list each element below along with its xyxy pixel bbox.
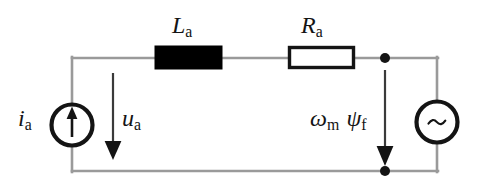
emf-arrow [377, 70, 394, 166]
circuit-schematic-svg [0, 0, 488, 195]
current-subscript: a [25, 116, 32, 133]
inductance-label: La [172, 13, 193, 37]
voltage-label: ua [122, 106, 141, 130]
psi-subscript: f [361, 116, 366, 133]
resistor-symbol [290, 48, 354, 68]
resistance-symbol: R [301, 12, 316, 38]
node-bottom-right-dot [380, 166, 390, 176]
current-source-symbol [52, 105, 93, 146]
inductance-symbol: L [172, 12, 185, 38]
voltage-symbol: u [122, 105, 134, 131]
current-label: ia [18, 106, 32, 130]
emf-arrow-head [377, 146, 394, 166]
emf-label: ωmψf [310, 106, 367, 130]
voltage-arrow-ua-head [105, 141, 122, 160]
omega-symbol: ω [310, 105, 327, 131]
inductor-symbol [155, 46, 222, 69]
resistance-subscript: a [316, 23, 323, 40]
circuit-diagram-canvas: La Ra ia ua ωmψf [0, 0, 488, 195]
voltage-subscript: a [134, 116, 141, 133]
psi-symbol: ψ [346, 105, 361, 131]
current-symbol: i [18, 105, 25, 131]
omega-subscript: m [327, 116, 339, 133]
resistance-label: Ra [301, 13, 323, 37]
voltage-arrow-ua [105, 73, 122, 160]
inductance-subscript: a [185, 23, 192, 40]
node-top-right-dot [380, 53, 390, 63]
ac-source-symbol [417, 102, 458, 143]
